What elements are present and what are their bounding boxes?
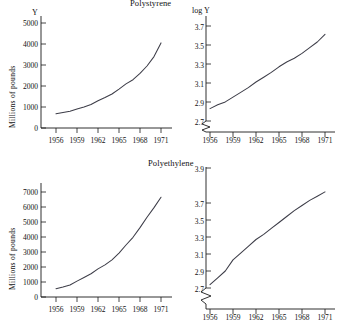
- panel-polystyrene-linear: Y Millions of pounds 0 1000 2000 3000 40…: [0, 0, 180, 165]
- panel-polyethylene-linear: Millions of pounds 0 1000 2000 3000 4000…: [0, 165, 180, 329]
- data-curve-polystyrene-linear: [56, 43, 161, 114]
- panel-polystyrene-log: log Y 2.7 2.9 3.1 3.3 3.5 3.7 1956 1959 …: [180, 0, 340, 165]
- axis-break-icon: [201, 288, 211, 309]
- polymer-production-figure: Polystyrene Polyethylene Y Millions of p…: [0, 0, 340, 329]
- axis-break-icon: [202, 121, 210, 132]
- plot-area-polyethylene-log: [180, 165, 340, 329]
- panel-polyethylene-log: 2.7 2.9 3.1 3.3 3.5 3.7 3.9 1956 1959 19…: [180, 165, 340, 329]
- data-curve-polystyrene-log: [210, 34, 325, 108]
- data-curve-polyethylene-log: [210, 192, 325, 285]
- data-curve-polyethylene-linear: [56, 197, 161, 288]
- plot-area-polyethylene-linear: [0, 165, 180, 329]
- plot-area-polystyrene-linear: [0, 0, 180, 165]
- plot-area-polystyrene-log: [180, 0, 340, 165]
